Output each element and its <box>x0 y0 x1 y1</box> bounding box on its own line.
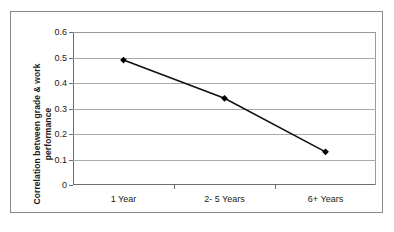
y-axis-title-line-1: Correlation between grade & work <box>32 63 43 204</box>
data-point-marker <box>221 95 228 102</box>
y-tick-mark <box>69 185 73 186</box>
y-tick-label: 0.4 <box>54 78 67 88</box>
y-tick-label: 0.5 <box>54 53 67 63</box>
data-series-line <box>73 32 376 185</box>
y-tick-label: 0.2 <box>54 129 67 139</box>
y-axis-title-line-2: performance <box>43 108 54 161</box>
x-tick-label: 6+ Years <box>308 194 343 204</box>
data-point-marker <box>322 148 329 155</box>
series-polyline <box>124 60 326 152</box>
x-tick-mark <box>174 185 175 189</box>
y-tick-label: 0 <box>62 180 67 190</box>
x-tick-label: 2- 5 Years <box>204 194 245 204</box>
chart-frame: Correlation between grade & work perform… <box>10 11 383 213</box>
y-tick-label: 0.6 <box>54 27 67 37</box>
y-tick-label: 0.3 <box>54 104 67 114</box>
plot-area: 00.10.20.30.40.50.6 1 Year2- 5 Years6+ Y… <box>73 32 376 185</box>
y-tick-label: 0.1 <box>54 155 67 165</box>
x-tick-mark <box>275 185 276 189</box>
x-tick-label: 1 Year <box>111 194 137 204</box>
data-point-marker <box>120 57 127 64</box>
